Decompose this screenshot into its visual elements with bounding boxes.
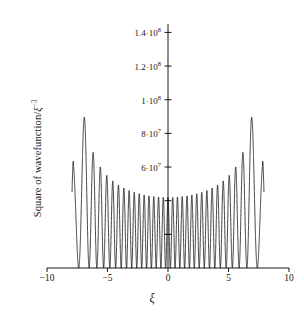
axes <box>47 24 289 272</box>
chart-figure: Square of wavefunction/ξ−3 ξ 6·1078·1071… <box>0 0 304 322</box>
plot-canvas <box>0 0 304 322</box>
